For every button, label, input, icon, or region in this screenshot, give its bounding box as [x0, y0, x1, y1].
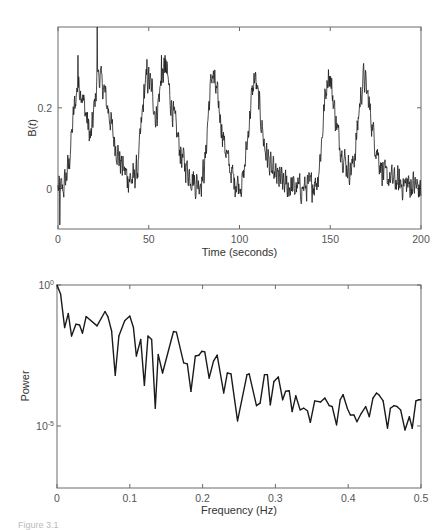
spectrum-point [60, 294, 61, 295]
spectrum-point [404, 429, 405, 430]
spectrum-point [273, 381, 274, 382]
spectrum-point [86, 316, 87, 317]
spectrum-point [412, 428, 413, 429]
x-tick-label: 0.3 [268, 492, 283, 504]
spectrum-point [282, 399, 283, 400]
spectrum-point [217, 355, 218, 356]
time-series-y-ticks: 00.2 [37, 102, 421, 195]
spectrum-point [79, 324, 80, 325]
spectrum-point [278, 376, 279, 377]
spectrum-point [162, 372, 163, 373]
figure-canvas: 050100150200 00.2 Time (seconds) B(t) 00… [0, 0, 448, 530]
spectrum-point [400, 409, 401, 410]
spectrum-point [285, 391, 286, 392]
y-label-close: ) [26, 119, 38, 123]
spectrum-point [68, 313, 69, 314]
spectrum-point [332, 406, 333, 407]
spectrum-point [390, 408, 391, 409]
figure-caption: Figure 3.1 [18, 520, 59, 530]
spectrum-point [201, 351, 202, 352]
power-spectrum-line [57, 285, 421, 430]
spectrum-point [230, 373, 231, 374]
spectrum-point [75, 324, 76, 325]
power-spectrum-y-axis-label: Power [19, 370, 31, 402]
spectrum-point [249, 373, 250, 374]
spectrum-point [144, 385, 145, 386]
spectrum-point [111, 330, 112, 331]
spectrum-point [324, 397, 325, 398]
spectrum-point [396, 406, 397, 407]
time-series-panel: 050100150200 00.2 Time (seconds) B(t) [26, 27, 430, 258]
x-tick-label: 150 [321, 233, 339, 245]
spectrum-point [198, 355, 199, 356]
spectrum-point [350, 414, 351, 415]
spectrum-point [336, 424, 337, 425]
spectrum-point [361, 413, 362, 414]
spectrum-point [356, 421, 357, 422]
y-tick-label: 100 [38, 279, 54, 291]
x-tick-label: 200 [412, 233, 430, 245]
spectrum-point [307, 410, 308, 411]
spectrum-point [213, 361, 214, 362]
spectrum-point [204, 351, 205, 352]
spectrum-point [340, 399, 341, 400]
y-tick-label: 10-5 [36, 420, 54, 432]
y-tick-label: 0.2 [37, 102, 52, 114]
spectrum-point [223, 392, 224, 393]
spectrum-point [124, 320, 125, 321]
x-tick-label: 50 [143, 233, 155, 245]
spectrum-point [158, 354, 159, 355]
spectrum-point [147, 335, 148, 336]
spectrum-point [343, 394, 344, 395]
spectrum-point [383, 400, 384, 401]
spectrum-point [227, 372, 228, 373]
spectrum-point [104, 311, 105, 312]
spectrum-point [347, 408, 348, 409]
spectrum-point [133, 327, 134, 328]
spectrum-point [256, 405, 257, 406]
spectrum-point [237, 420, 238, 421]
spectrum-point [151, 339, 152, 340]
spectrum-point [314, 400, 315, 401]
y-tick-label: 0 [46, 183, 52, 195]
spectrum-point [387, 428, 388, 429]
x-tick-label: 0.2 [195, 492, 210, 504]
time-series-x-axis-label: Time (seconds) [202, 246, 277, 258]
spectrum-point [365, 406, 366, 407]
y-label-base: B( [26, 126, 38, 137]
spectrum-point [264, 374, 265, 375]
x-tick-label: 100 [231, 233, 249, 245]
spectrum-point [129, 315, 130, 316]
spectrum-point [190, 391, 191, 392]
spectrum-point [320, 401, 321, 402]
spectrum-point [292, 411, 293, 412]
x-tick-label: 0 [54, 492, 60, 504]
spectrum-point [140, 339, 141, 340]
power-spectrum-x-ticks: 00.10.20.30.40.5 [54, 285, 428, 504]
spectrum-point [176, 331, 177, 332]
spectrum-point [420, 399, 421, 400]
figure: 050100150200 00.2 Time (seconds) B(t) 00… [0, 0, 448, 530]
spectrum-point [303, 408, 304, 409]
spectrum-point [115, 375, 116, 376]
x-tick-label: 0.1 [122, 492, 137, 504]
spectrum-point [329, 405, 330, 406]
spectrum-point [136, 355, 137, 356]
spectrum-point [71, 335, 72, 336]
spectrum-point [155, 408, 156, 409]
spectrum-point [246, 374, 247, 375]
time-series-line [58, 27, 421, 225]
spectrum-point [415, 400, 416, 401]
x-tick-label: 0 [55, 233, 61, 245]
spectrum-point [409, 416, 410, 417]
spectrum-point [353, 414, 354, 415]
spectrum-point [270, 404, 271, 405]
spectrum-point [393, 405, 394, 406]
spectrum-point [209, 377, 210, 378]
spectrum-point [289, 390, 290, 391]
spectrum-point [295, 395, 296, 396]
power-spectrum-x-axis-label: Frequency (Hz) [201, 504, 277, 516]
spectrum-point [64, 327, 65, 328]
spectrum-point [56, 284, 57, 285]
spectrum-point [267, 374, 268, 375]
